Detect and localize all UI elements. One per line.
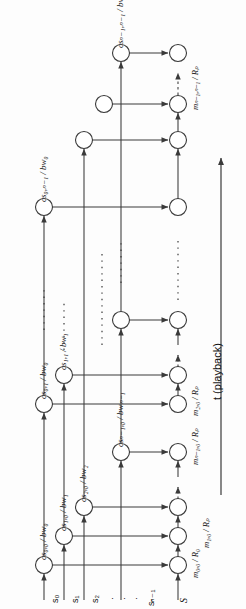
node-m-0-0: [170, 557, 187, 574]
label-m-0-0: m₀,₀ / R₀: [190, 549, 200, 578]
label-cs-0-0: cs₀,₀ / bw₀: [38, 523, 48, 560]
node-m-0-n1: [170, 199, 187, 216]
node-cs-N1-1: [113, 312, 130, 329]
axis-label-s2: s₂: [90, 595, 100, 603]
node-m-mid-b: [170, 96, 187, 113]
axis-label-dots-3: ·: [131, 597, 141, 600]
node-m-1-0: [170, 528, 187, 545]
time-axis-label: t (playback): [211, 343, 223, 400]
label-cs-1-0: cs₁,₀ / bw₁: [58, 494, 68, 531]
label-cs-0-n1: cs₀,ₙ₋₁ / bw₀: [38, 156, 48, 202]
node-m-N1-n1: [170, 45, 187, 62]
label-cs-1-1: cs₁,₁ / bw₁: [58, 333, 68, 370]
label-cs-0-1: cs₀,₁ / bw₀: [38, 362, 48, 399]
axis-label-dots-1: ·: [107, 597, 117, 600]
label-m-1-0: m₁,₀ / Rₚ: [201, 518, 211, 548]
edges-group: [44, 53, 221, 600]
label-cs-N1-n1: csₙ₋₁,ₙ₋₁ / bwₙ₋₁: [115, 0, 125, 48]
node-m-N1-1: [170, 312, 187, 329]
axis-label-sN1: sₙ₋₁: [146, 589, 156, 606]
axis-label-S: S: [178, 598, 189, 603]
label-m-2-0: m₂,₀ / Rₚ: [190, 386, 200, 416]
node-m-mid-a: [170, 132, 187, 149]
axis-label-s1: s₁: [70, 595, 80, 603]
label-cs-2-0: cs₂,₀ / bw₂: [78, 465, 88, 502]
figure-canvas: s₀ s₁ s₂ · · · sₙ₋₁ S cs₀,₀ / bw₀ cs₁,₀ …: [0, 0, 246, 609]
node-m-2-0: [170, 499, 187, 516]
label-cs-N1-0: csₙ₋₁,₀ / bwₙ₋₁: [115, 392, 125, 447]
node-m-0-1: [170, 396, 187, 413]
node-cs-mid-b: [96, 96, 113, 113]
node-cs-mid-a: [76, 132, 93, 149]
axis-label-dots-2: ·: [119, 597, 129, 600]
node-m-1-1: [170, 367, 187, 384]
label-m-N1-0: mₙ₋₁,₀ / Rₚ: [190, 428, 200, 465]
axis-label-s0: s₀: [50, 595, 60, 603]
node-m-N1-0: [170, 444, 187, 461]
label-m-N1-n1: mₙ₋₁,ₙ₋₁ / Rₚ: [190, 66, 200, 110]
